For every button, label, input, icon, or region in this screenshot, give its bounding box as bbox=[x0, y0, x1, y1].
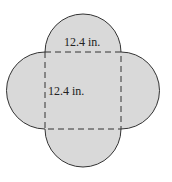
top-side-label: 12.4 in. bbox=[64, 35, 100, 49]
left-side-label: 12.4 in. bbox=[48, 84, 84, 98]
quatrefoil-figure: 12.4 in. 12.4 in. bbox=[0, 0, 172, 182]
